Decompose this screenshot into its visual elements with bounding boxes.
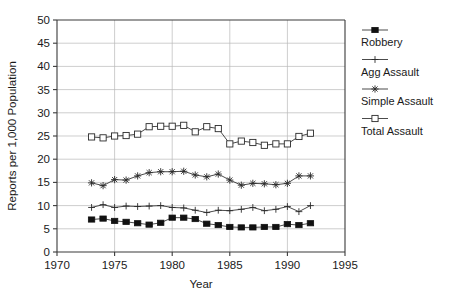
marker-filled-square xyxy=(111,218,117,223)
x-tick-label: 1990 xyxy=(275,259,301,271)
marker-asterisk xyxy=(307,172,314,179)
marker-filled-square xyxy=(372,27,378,32)
marker-filled-square xyxy=(296,222,302,227)
marker-plus xyxy=(134,203,141,210)
marker-open-square xyxy=(123,132,129,138)
marker-plus xyxy=(111,204,118,211)
marker-open-square xyxy=(296,133,302,139)
marker-asterisk xyxy=(123,176,130,183)
marker-filled-square xyxy=(88,217,94,222)
marker-asterisk xyxy=(284,180,291,187)
marker-filled-square xyxy=(215,222,221,227)
marker-open-square xyxy=(238,138,244,144)
y-tick-label: 5 xyxy=(44,223,50,235)
marker-open-square xyxy=(227,141,233,147)
chart-figure: 05101520253035404550 1970197519801985199… xyxy=(0,0,450,295)
marker-plus xyxy=(226,207,233,214)
legend-item-label: Agg Assault xyxy=(361,66,419,78)
legend-item-label: Simple Assault xyxy=(361,95,433,107)
marker-asterisk xyxy=(146,169,153,176)
marker-filled-square xyxy=(123,219,129,224)
marker-asterisk xyxy=(169,168,176,175)
y-tick-label: 15 xyxy=(37,176,50,188)
marker-open-square xyxy=(100,135,106,141)
legend-item-label: Robbery xyxy=(361,36,403,48)
marker-asterisk xyxy=(180,168,187,175)
marker-filled-square xyxy=(100,216,106,221)
x-tick-label: 1995 xyxy=(332,259,358,271)
y-tick-label: 25 xyxy=(37,130,50,142)
marker-filled-square xyxy=(284,222,290,227)
y-tick-label: 45 xyxy=(37,37,50,49)
marker-asterisk xyxy=(99,182,106,189)
marker-open-square xyxy=(158,123,164,129)
marker-plus xyxy=(157,202,164,209)
marker-asterisk xyxy=(157,168,164,175)
x-tick-group: 197019751980198519901995 xyxy=(44,252,358,271)
y-tick-label: 30 xyxy=(37,107,50,119)
marker-plus xyxy=(284,203,291,210)
marker-plus xyxy=(261,207,268,214)
marker-filled-square xyxy=(146,222,152,227)
x-tick-label: 1980 xyxy=(159,259,185,271)
marker-filled-square xyxy=(157,220,163,225)
marker-asterisk xyxy=(371,85,378,92)
marker-filled-square xyxy=(307,221,313,226)
marker-plus xyxy=(192,207,199,214)
marker-asterisk xyxy=(215,170,222,177)
y-tick-group: 05101520253035404550 xyxy=(37,14,57,258)
marker-filled-square xyxy=(169,215,175,220)
legend-item-simple-assault[interactable]: Simple Assault xyxy=(361,85,433,107)
marker-open-square xyxy=(284,141,290,147)
data-series-group xyxy=(88,122,314,230)
legend-item-robbery[interactable]: Robbery xyxy=(361,27,403,48)
marker-asterisk xyxy=(272,181,279,188)
series-agg-assault xyxy=(88,201,314,216)
marker-open-square xyxy=(215,125,221,131)
marker-open-square xyxy=(250,139,256,145)
y-axis-title: Reports per 1,000 Population xyxy=(6,61,18,211)
marker-open-square xyxy=(372,115,378,121)
marker-open-square xyxy=(261,142,267,148)
marker-plus xyxy=(272,206,279,213)
chart-legend: RobberyAgg AssaultSimple AssaultTotal As… xyxy=(361,27,433,136)
marker-asterisk xyxy=(134,172,141,179)
marker-plus xyxy=(203,209,210,216)
y-tick-label: 35 xyxy=(37,84,50,96)
legend-item-agg-assault[interactable]: Agg Assault xyxy=(361,56,419,77)
chart-svg: 05101520253035404550 1970197519801985199… xyxy=(0,0,450,295)
marker-asterisk xyxy=(295,172,302,179)
marker-open-square xyxy=(181,122,187,128)
y-tick-label: 0 xyxy=(44,246,50,258)
marker-open-square xyxy=(204,124,210,130)
y-tick-label: 40 xyxy=(37,60,50,72)
marker-asterisk xyxy=(238,182,245,189)
marker-filled-square xyxy=(204,221,210,226)
marker-open-square xyxy=(307,130,313,136)
marker-filled-square xyxy=(273,224,279,229)
series-total-assault xyxy=(88,122,313,148)
marker-plus xyxy=(238,206,245,213)
marker-asterisk xyxy=(192,171,199,178)
marker-plus xyxy=(296,208,303,215)
marker-plus xyxy=(215,207,222,214)
marker-open-square xyxy=(88,134,94,140)
marker-asterisk xyxy=(226,176,233,183)
y-tick-label: 20 xyxy=(37,153,50,165)
marker-asterisk xyxy=(88,179,95,186)
marker-plus xyxy=(169,204,176,211)
marker-plus xyxy=(88,204,95,211)
marker-filled-square xyxy=(134,221,140,226)
marker-asterisk xyxy=(203,173,210,180)
marker-filled-square xyxy=(238,225,244,230)
marker-asterisk xyxy=(249,180,256,187)
marker-open-square xyxy=(146,124,152,130)
x-tick-label: 1985 xyxy=(217,259,243,271)
marker-open-square xyxy=(135,131,141,137)
x-axis-title: Year xyxy=(189,278,212,290)
x-tick-label: 1975 xyxy=(102,259,128,271)
marker-filled-square xyxy=(227,224,233,229)
marker-asterisk xyxy=(111,176,118,183)
y-tick-label: 50 xyxy=(37,14,50,26)
legend-item-total-assault[interactable]: Total Assault xyxy=(361,115,423,136)
